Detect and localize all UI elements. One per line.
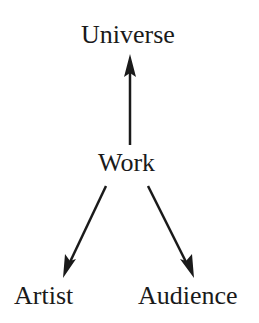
arrow-work-to-audience	[148, 186, 186, 262]
arrows	[0, 0, 259, 323]
arrowhead-down-left-icon	[63, 254, 76, 278]
arrow-work-to-artist	[70, 186, 106, 262]
arrowhead-down-right-icon	[180, 254, 194, 278]
